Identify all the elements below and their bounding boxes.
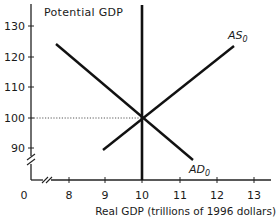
- as-curve: AS0: [103, 29, 248, 150]
- x-axis-title: Real GDP (trillions of 1996 dollars): [95, 205, 276, 217]
- ad-label: AD0: [188, 163, 210, 178]
- x-tick-label: 11: [173, 189, 187, 202]
- ad-as-chart: 130 120 110 100 90 0 8 9 10 11 12 13 Rea…: [0, 0, 280, 221]
- potential-gdp-label: Potential GDP: [44, 6, 123, 19]
- x-tick-label: 9: [102, 189, 109, 202]
- y-tick-label: 100: [4, 112, 25, 125]
- potential-gdp-line: Potential GDP: [44, 5, 142, 180]
- ad-curve: AD0: [56, 44, 210, 178]
- y-tick-label: 120: [4, 51, 25, 64]
- as-label: AS0: [227, 29, 248, 44]
- x-tick-label: 12: [210, 189, 224, 202]
- y-axis: 130 120 110 100 90: [4, 4, 35, 180]
- x-tick-label: 10: [135, 189, 149, 202]
- y-tick-label: 130: [4, 20, 25, 33]
- x-axis: 0 8 9 10 11 12 13 Real GDP (trillions of…: [21, 177, 277, 217]
- origin-label: 0: [21, 189, 28, 202]
- y-tick-label: 110: [4, 81, 25, 94]
- x-tick-label: 8: [66, 189, 73, 202]
- x-tick-label: 13: [247, 189, 261, 202]
- y-tick-label: 90: [11, 142, 25, 155]
